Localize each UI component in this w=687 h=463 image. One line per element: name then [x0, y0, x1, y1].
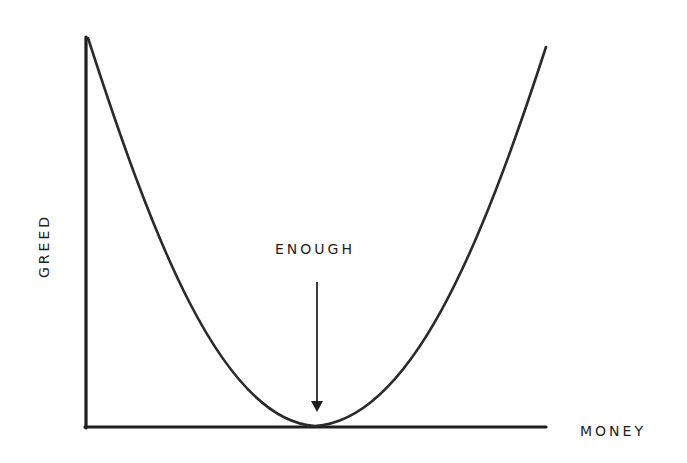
chart-canvas	[0, 0, 687, 463]
y-axis-label: GREED	[36, 210, 52, 282]
enough-arrow-head	[311, 401, 323, 412]
annotation-enough-label: ENOUGH	[275, 241, 355, 257]
x-axis-label: MONEY	[580, 423, 646, 439]
